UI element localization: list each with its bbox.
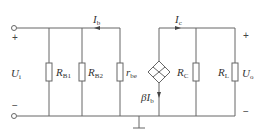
output-voltage-label: Uo <box>242 68 253 81</box>
ib-label: Ib <box>93 14 100 27</box>
source-arrow-icon <box>157 92 161 98</box>
ic-label: Ic <box>175 14 182 27</box>
output-minus: − <box>243 107 249 117</box>
rl-label: RL <box>218 67 229 80</box>
rb2-label: RB2 <box>88 67 103 80</box>
rc-label: RC <box>177 67 188 80</box>
source-label: βIb <box>141 92 154 105</box>
input-minus: − <box>12 101 18 111</box>
rb1-label: RB1 <box>56 67 71 80</box>
input-plus: + <box>12 33 18 43</box>
input-voltage-label: Ui <box>11 68 21 81</box>
output-plus: + <box>243 31 249 41</box>
rbe-label: rbe <box>126 67 137 80</box>
